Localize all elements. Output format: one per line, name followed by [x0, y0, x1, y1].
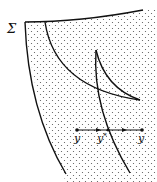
label-y-star: y*	[97, 133, 107, 144]
region-figure	[0, 0, 157, 182]
label-y-prime: y′	[138, 133, 146, 144]
stippled-region	[25, 10, 157, 182]
label-y: y	[74, 133, 80, 144]
diagram-canvas: Σ y y* y′	[0, 0, 157, 182]
region-label-sigma: Σ	[7, 22, 16, 35]
point-y-star	[107, 129, 110, 132]
